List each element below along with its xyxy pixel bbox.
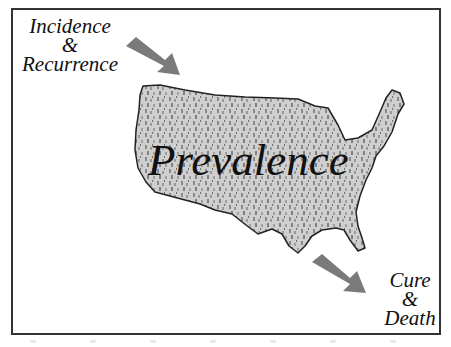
outflow-arrow-icon: [312, 254, 366, 293]
inflow-arrow-icon: [126, 37, 180, 75]
inflow-label: Incidence & Recurrence: [14, 17, 126, 74]
cropped-text-remnant: [30, 340, 430, 343]
prevalence-label: Prevalence: [148, 134, 349, 186]
inflow-label-line3: Recurrence: [14, 55, 126, 74]
outflow-label: Cure & Death: [380, 271, 440, 328]
outflow-label-line3: Death: [380, 309, 440, 328]
